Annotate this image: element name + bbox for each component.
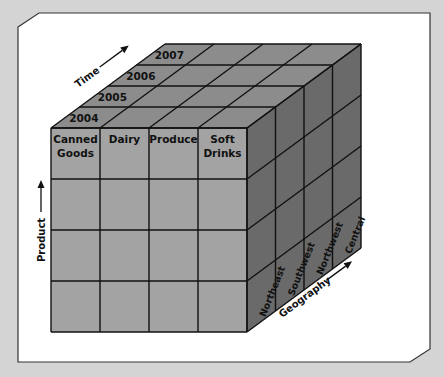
product-label: Drinks	[203, 147, 241, 159]
svg-text:Product: Product	[36, 218, 47, 262]
product-label: Canned	[53, 133, 97, 145]
time-label: 2004	[69, 112, 98, 124]
time-label: 2006	[126, 70, 155, 82]
product-label: Produce	[149, 133, 197, 145]
data-cube-diagram: CannedGoodsDairyProduceSoftDrinks2004200…	[0, 0, 444, 377]
product-label: Goods	[57, 147, 94, 159]
product-label: Dairy	[109, 133, 141, 145]
time-label: 2005	[98, 91, 127, 103]
product-label: Soft	[210, 133, 234, 145]
time-label: 2007	[155, 49, 184, 61]
